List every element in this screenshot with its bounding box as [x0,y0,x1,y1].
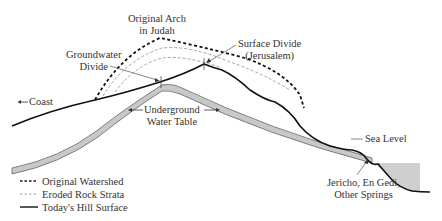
label-groundwater-divide-line1: Groundwater [66,49,121,61]
label-surface-divide: Surface Divide (Jerusalem) [238,38,301,62]
label-springs: Jericho, En Gedi, Other Springs [327,177,400,201]
label-groundwater-divide-line2: Divide [66,61,121,73]
surface-divide-leader [208,45,236,62]
legend-eroded-strata: Eroded Rock Strata [42,188,124,200]
label-springs-line1: Jericho, En Gedi, [327,177,400,189]
label-water-table-line2: Water Table [144,116,200,128]
legend-original-watershed: Original Watershed [42,175,123,187]
label-water-table: Underground Water Table [144,104,200,128]
label-original-arch-line1: Original Arch [128,13,186,25]
label-surface-divide-line2: (Jerusalem) [238,50,301,62]
hill-surface [12,64,430,192]
label-original-arch-line2: in Judah [128,25,186,37]
legend-hill-surface: Today's Hill Surface [42,201,128,213]
water-table-band [12,84,372,174]
label-surface-divide-line1: Surface Divide [238,38,301,50]
label-original-arch: Original Arch in Judah [128,13,186,37]
label-coast: Coast [29,96,53,108]
label-sea-level: Sea Level [365,133,407,145]
label-water-table-line1: Underground [144,104,200,116]
label-springs-line2: Other Springs [327,189,400,201]
label-groundwater-divide: Groundwater Divide [66,49,121,73]
